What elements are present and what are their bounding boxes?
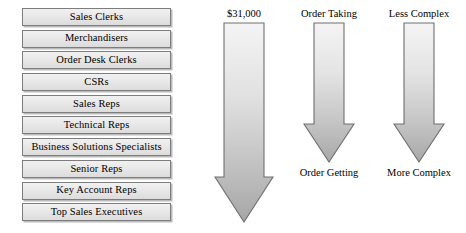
role-box-label: Top Sales Executives (51, 207, 143, 218)
down-arrow-icon (393, 22, 445, 164)
arrow-group-complexity: Less Complex More Complex (372, 0, 466, 233)
role-box-label: Key Account Reps (56, 185, 136, 196)
role-box: Sales Clerks (22, 8, 171, 26)
role-box: Key Account Reps (22, 182, 171, 200)
role-box: Technical Reps (22, 116, 171, 134)
role-box: Business Solutions Specialists (22, 138, 171, 156)
down-arrow-icon (214, 22, 274, 224)
role-box-label: CSRs (84, 77, 108, 88)
role-box-list: Sales Clerks Merchandisers Order Desk Cl… (22, 8, 171, 225)
role-box: Sales Reps (22, 95, 171, 113)
role-box: Merchandisers (22, 30, 171, 48)
role-box-label: Technical Reps (64, 120, 130, 131)
arrow-order-top-label: Order Taking (286, 9, 372, 20)
sales-role-continuum-diagram: Sales Clerks Merchandisers Order Desk Cl… (0, 0, 466, 233)
role-box: Order Desk Clerks (22, 51, 171, 69)
role-box: CSRs (22, 73, 171, 91)
role-box-label: Business Solutions Specialists (31, 142, 161, 153)
arrow-order-bottom-label: Order Getting (286, 168, 372, 179)
role-box-label: Senior Reps (70, 164, 122, 175)
role-box-label: Sales Clerks (70, 12, 123, 23)
role-box-label: Sales Reps (73, 99, 120, 110)
arrow-group-revenue: $31,000 (196, 0, 292, 233)
arrow-revenue-top-label: $31,000 (196, 9, 292, 20)
role-box-label: Order Desk Clerks (56, 55, 136, 66)
arrow-group-order-role: Order Taking Order Getting (286, 0, 372, 233)
role-box-label: Merchandisers (65, 33, 128, 44)
role-box: Senior Reps (22, 160, 171, 178)
role-box: Top Sales Executives (22, 203, 171, 221)
arrow-complexity-top-label: Less Complex (372, 9, 466, 20)
down-arrow-icon (303, 22, 355, 164)
arrow-complexity-bottom-label: More Complex (372, 168, 466, 179)
